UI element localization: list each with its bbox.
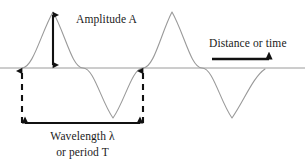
amplitude-label: Amplitude A xyxy=(76,13,137,26)
distance-or-time-label: Distance or time xyxy=(209,37,287,50)
wavelength-label-line2: or period T xyxy=(22,146,143,159)
wavelength-label-line1: Wavelength λ xyxy=(22,130,143,143)
wave-diagram-figure: Amplitude A Distance or time Wavelength … xyxy=(0,0,305,168)
sine-wave-curve xyxy=(22,12,265,118)
wavelength-label-block: Wavelength λ or period T xyxy=(22,130,143,159)
